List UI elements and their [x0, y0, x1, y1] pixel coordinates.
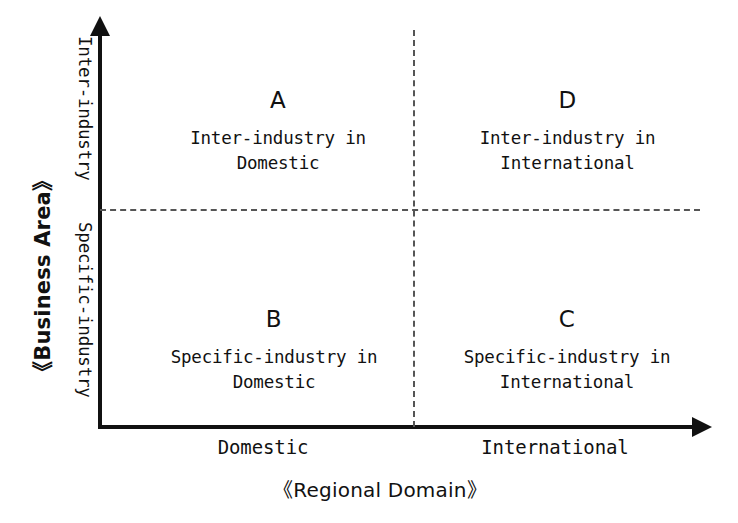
y-axis-title: 《Business Area》 — [26, 170, 56, 382]
quadrant-c-letter: C — [428, 303, 706, 336]
diagram-canvas: A Inter-industry in Domestic D Inter-ind… — [0, 0, 738, 523]
quadrant-d-letter: D — [430, 84, 705, 117]
quadrant-b-line2: Domestic — [140, 370, 408, 395]
quadrant-a-letter: A — [148, 84, 408, 117]
x-axis-title: 《Regional Domain》 — [230, 474, 530, 503]
quadrant-c-line2: International — [428, 370, 706, 395]
quadrant-a-line2: Domestic — [148, 151, 408, 176]
quadrant-d-line2: International — [430, 151, 705, 176]
y-axis-line — [98, 30, 102, 429]
x-axis-tick-international: International — [455, 436, 655, 458]
quadrant-b-letter: B — [140, 303, 408, 336]
quadrant-d-line1: Inter-industry in — [430, 126, 705, 151]
y-axis-tick-inter-industry: Inter-industry — [75, 36, 95, 181]
quadrant-d: D Inter-industry in International — [430, 84, 705, 175]
quadrant-b-line1: Specific-industry in — [140, 345, 408, 370]
x-axis-tick-domestic: Domestic — [183, 436, 343, 458]
x-axis-arrow-icon — [692, 417, 712, 437]
quadrant-c-line1: Specific-industry in — [428, 345, 706, 370]
quadrant-c: C Specific-industry in International — [428, 303, 706, 394]
quadrant-b: B Specific-industry in Domestic — [140, 303, 408, 394]
x-axis-line — [98, 425, 698, 429]
horizontal-divider-dashed — [100, 209, 700, 211]
y-axis-tick-specific-industry: Specific-industry — [75, 222, 95, 398]
y-axis-arrow-icon — [90, 16, 110, 36]
quadrant-a-line1: Inter-industry in — [148, 126, 408, 151]
quadrant-a: A Inter-industry in Domestic — [148, 84, 408, 175]
vertical-divider-dashed — [413, 30, 415, 427]
